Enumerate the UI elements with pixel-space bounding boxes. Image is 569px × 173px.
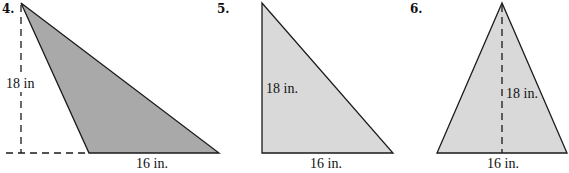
figure-4: 4. 18 in 16 in. bbox=[2, 2, 219, 171]
height-label: 18 in. bbox=[506, 86, 538, 101]
obtuse-triangle bbox=[21, 3, 219, 153]
base-label: 16 in. bbox=[487, 156, 519, 171]
right-triangle bbox=[262, 3, 393, 153]
figure-6: 6. 18 in. 16 in. bbox=[410, 2, 567, 171]
figure-number: 4. bbox=[2, 2, 15, 16]
height-label: 18 in. bbox=[266, 81, 298, 96]
base-label: 16 in. bbox=[136, 156, 168, 171]
figure-5: 5. 18 in. 16 in. bbox=[217, 2, 393, 171]
figure-number: 5. bbox=[217, 2, 230, 16]
base-label: 16 in. bbox=[310, 156, 342, 171]
height-label: 18 in bbox=[6, 76, 34, 91]
figure-number: 6. bbox=[410, 2, 423, 16]
diagram-svg: 4. 18 in 16 in. 5. 18 in. 16 in. 6. 18 i… bbox=[0, 0, 569, 173]
triangle-diagrams: 4. 18 in 16 in. 5. 18 in. 16 in. 6. 18 i… bbox=[0, 0, 569, 173]
